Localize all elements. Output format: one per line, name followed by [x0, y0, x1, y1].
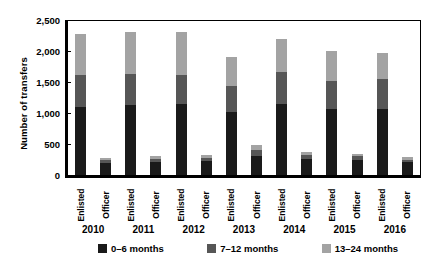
bars-layer [68, 20, 420, 175]
y-tick-label: 2,500 [16, 15, 60, 26]
category-label-text: Enlisted [76, 188, 86, 221]
category-label-enlisted: Enlisted [326, 180, 337, 224]
bar-segment [75, 107, 86, 175]
category-label-enlisted: Enlisted [226, 180, 237, 224]
legend-item[interactable]: 7–12 months [207, 243, 278, 254]
legend-item[interactable]: 13–24 months [322, 243, 398, 254]
year-label-2014: 2014 [269, 224, 319, 238]
bar-segment [226, 86, 237, 113]
category-label-officer: Officer [402, 180, 413, 224]
category-label-text: Enlisted [176, 188, 186, 221]
y-tick-label: 1,500 [16, 77, 60, 88]
category-label-text: Officer [252, 191, 262, 218]
category-group: EnlistedOfficer [269, 180, 319, 224]
category-group: EnlistedOfficer [370, 180, 420, 224]
bar-segment [276, 72, 287, 104]
category-group: EnlistedOfficer [169, 180, 219, 224]
category-label-text: Enlisted [226, 188, 236, 221]
category-group: EnlistedOfficer [219, 180, 269, 224]
bar-group [118, 20, 168, 175]
bar-segment [377, 109, 388, 175]
bar-2014-officer[interactable] [301, 152, 312, 175]
category-label-officer: Officer [201, 180, 212, 224]
category-label-text: Officer [201, 191, 211, 218]
bar-segment [226, 57, 237, 86]
category-label-text: Enlisted [277, 188, 287, 221]
bar-group [370, 20, 420, 175]
legend-label: 13–24 months [335, 243, 398, 254]
year-label-2015: 2015 [319, 224, 369, 238]
category-label-officer: Officer [100, 180, 111, 224]
bar-2012-officer[interactable] [201, 155, 212, 175]
legend-label: 7–12 months [220, 243, 278, 254]
category-label-text: Enlisted [377, 188, 387, 221]
year-label-2011: 2011 [118, 224, 168, 238]
bar-segment [377, 53, 388, 79]
bar-2013-enlisted[interactable] [226, 57, 237, 175]
bar-segment [100, 163, 111, 175]
year-label-2016: 2016 [370, 224, 420, 238]
category-label-enlisted: Enlisted [75, 180, 86, 224]
bar-2011-enlisted[interactable] [125, 32, 136, 175]
category-group: EnlistedOfficer [319, 180, 369, 224]
year-label-2010: 2010 [68, 224, 118, 238]
legend-label: 0–6 months [111, 243, 164, 254]
category-label-text: Officer [101, 191, 111, 218]
bar-segment [326, 81, 337, 109]
bar-segment [326, 109, 337, 175]
y-tick-label: 0 [16, 170, 60, 181]
bar-segment [326, 51, 337, 81]
bar-segment [352, 160, 363, 176]
year-label-2012: 2012 [169, 224, 219, 238]
stacked-bar-chart: Number of transfers 05001,0001,5002,0002… [0, 0, 430, 268]
bar-2016-enlisted[interactable] [377, 53, 388, 175]
category-group: EnlistedOfficer [118, 180, 168, 224]
bar-2011-officer[interactable] [150, 156, 161, 175]
bar-segment [201, 161, 212, 175]
year-label-2013: 2013 [219, 224, 269, 238]
bar-segment [75, 75, 86, 107]
bar-segment [176, 75, 187, 104]
category-labels: EnlistedOfficerEnlistedOfficerEnlistedOf… [68, 180, 420, 224]
category-label-officer: Officer [251, 180, 262, 224]
category-label-officer: Officer [150, 180, 161, 224]
bar-group [68, 20, 118, 175]
bar-segment [251, 156, 262, 175]
bar-2010-officer[interactable] [100, 158, 111, 175]
bar-segment [276, 39, 287, 72]
category-label-enlisted: Enlisted [276, 180, 287, 224]
category-label-enlisted: Enlisted [377, 180, 388, 224]
bar-2012-enlisted[interactable] [176, 32, 187, 175]
year-labels: 2010201120122013201420152016 [68, 224, 420, 238]
bar-segment [125, 105, 136, 175]
category-label-officer: Officer [301, 180, 312, 224]
bar-group [319, 20, 369, 175]
category-label-text: Officer [352, 191, 362, 218]
bar-group [269, 20, 319, 175]
legend-swatch-icon [322, 244, 331, 253]
legend-item[interactable]: 0–6 months [98, 243, 164, 254]
category-group: EnlistedOfficer [68, 180, 118, 224]
legend-swatch-icon [207, 244, 216, 253]
y-tick-label: 500 [16, 139, 60, 150]
bar-2016-officer[interactable] [402, 157, 413, 175]
bar-segment [125, 74, 136, 105]
bar-group [219, 20, 269, 175]
bar-2010-enlisted[interactable] [75, 34, 86, 175]
category-label-text: Officer [302, 191, 312, 218]
bar-segment [150, 162, 161, 175]
y-tick-label: 2,000 [16, 46, 60, 57]
category-label-enlisted: Enlisted [176, 180, 187, 224]
bar-2015-enlisted[interactable] [326, 51, 337, 175]
bar-2014-enlisted[interactable] [276, 39, 287, 175]
bar-segment [75, 34, 86, 75]
category-label-enlisted: Enlisted [125, 180, 136, 224]
bar-2013-officer[interactable] [251, 145, 262, 175]
category-label-text: Officer [402, 191, 412, 218]
bar-2015-officer[interactable] [352, 154, 363, 175]
chart-legend: 0–6 months7–12 months13–24 months [68, 241, 398, 255]
bar-segment [301, 159, 312, 175]
bar-segment [377, 79, 388, 109]
bar-segment [176, 32, 187, 75]
category-label-text: Officer [151, 191, 161, 218]
